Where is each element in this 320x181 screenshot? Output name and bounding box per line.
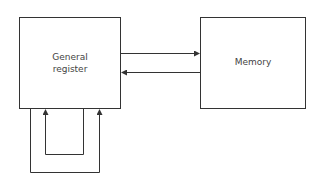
general-register-label-line1: General	[19, 51, 121, 63]
outer-feedback-loop	[31, 109, 100, 173]
memory-label: Memory	[200, 56, 306, 68]
inner-feedback-loop	[46, 109, 84, 155]
general-register-label-line2: register	[19, 63, 121, 75]
diagram-canvas	[0, 0, 320, 181]
general-register-label: General register	[19, 51, 121, 75]
